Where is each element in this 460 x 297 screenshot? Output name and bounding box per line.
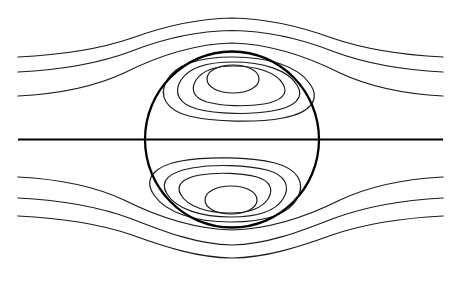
figure-root (0, 0, 460, 297)
figure-background (0, 0, 460, 297)
streamline-diagram (0, 0, 460, 297)
